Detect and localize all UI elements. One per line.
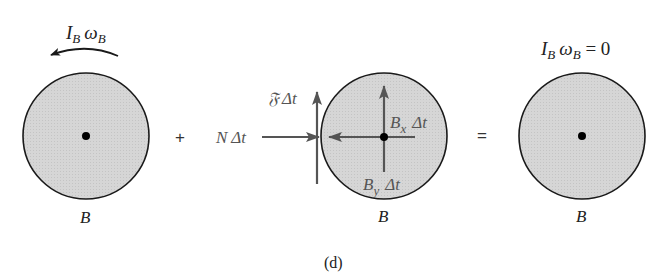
counterclockwise-arrow-icon <box>51 49 118 56</box>
plus-operator: + <box>175 128 185 147</box>
friction-impulse-label: 𝔉Δt <box>268 89 298 108</box>
panel-initial: IBωB B <box>23 22 149 227</box>
body-label-impulses: B <box>378 207 389 226</box>
center-dot <box>380 133 388 141</box>
figure-caption: (d) <box>324 254 343 272</box>
body-label-final: B <box>576 207 587 226</box>
panel-impulses: 𝔉Δt NΔt BxΔt ByΔt B <box>215 73 447 226</box>
initial-momentum-label: IBωB <box>65 22 106 46</box>
panel-final: IBωB = 0 B <box>519 38 645 226</box>
equals-operator: = <box>477 126 487 145</box>
center-dot <box>578 132 586 140</box>
center-dot <box>82 132 90 140</box>
body-label-initial: B <box>80 208 91 227</box>
final-momentum-label: IBωB = 0 <box>540 38 610 62</box>
normal-impulse-label: NΔt <box>215 128 247 147</box>
impulse-momentum-diagram: IBωB B + 𝔉Δt NΔt BxΔt ByΔt B = IBωB = 0 … <box>0 0 664 278</box>
